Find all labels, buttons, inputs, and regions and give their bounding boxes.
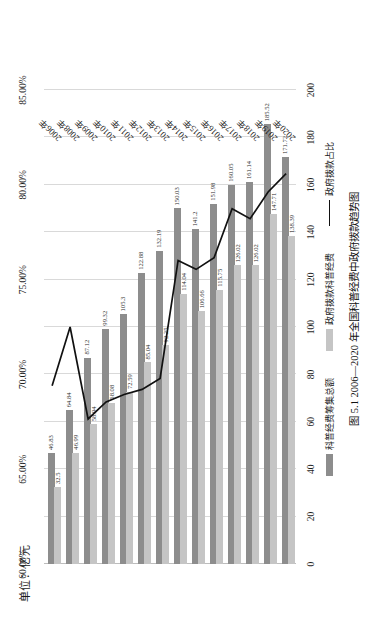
bar-value-total: 105.3 bbox=[120, 297, 127, 312]
bar-row: 171.72138.39 bbox=[278, 90, 296, 564]
legend-item: 政府拨款科普经费 bbox=[323, 253, 336, 352]
legend-item: 政府拨款占比 bbox=[323, 142, 336, 227]
bar-value-government: 92.25 bbox=[162, 328, 169, 343]
bar-row: 122.8885.04 bbox=[134, 90, 152, 564]
bar-government bbox=[72, 453, 78, 564]
bar-value-government: 147.71 bbox=[270, 193, 277, 211]
bar-government bbox=[216, 290, 222, 564]
figure-caption: 图 5.1 2006—2020 年全国科普经费中政府拨款趋势图 bbox=[346, 0, 361, 618]
bar-value-government: 106.66 bbox=[198, 290, 205, 308]
bar-value-total: 122.88 bbox=[138, 252, 145, 270]
bar-value-government: 46.99 bbox=[72, 435, 79, 450]
bar-row: 151.98115.75 bbox=[206, 90, 224, 564]
legend-swatch-icon bbox=[326, 455, 333, 477]
bar-value-total: 150.03 bbox=[174, 187, 181, 205]
bar-row: 105.372.59 bbox=[116, 90, 134, 564]
bar-row: 185.52147.71 bbox=[260, 90, 278, 564]
bar-government bbox=[162, 345, 168, 564]
bar-value-government: 126.02 bbox=[252, 244, 259, 262]
value-axis-tick: 200 bbox=[306, 83, 316, 97]
value-axis-tick: 100 bbox=[306, 320, 316, 334]
chart-legend: 科普经费筹集总额政府拨款科普经费政府拨款占比 bbox=[318, 0, 340, 618]
bar-government bbox=[144, 362, 150, 564]
bar-value-government: 115.75 bbox=[216, 269, 223, 287]
bar-row: 87.1258.94 bbox=[80, 90, 98, 564]
percent-axis-tick: 85.00% bbox=[18, 75, 28, 104]
bar-government bbox=[234, 265, 240, 564]
bar-row: 141.2106.66 bbox=[188, 90, 206, 564]
bar-value-government: 72.59 bbox=[126, 374, 133, 389]
value-axis-tick: 20 bbox=[306, 512, 316, 522]
legend-label: 政府拨款科普经费 bbox=[323, 253, 336, 325]
value-axis-tick: 0 bbox=[306, 562, 316, 567]
bar-row: 46.8332.5 bbox=[44, 90, 62, 564]
bar-row: 150.03114.04 bbox=[170, 90, 188, 564]
bar-value-total: 132.19 bbox=[156, 230, 163, 248]
bar-government bbox=[108, 403, 114, 564]
value-axis-tick: 40 bbox=[306, 464, 316, 474]
bar-government bbox=[126, 392, 132, 564]
bar-value-total: 161.14 bbox=[246, 161, 253, 179]
value-axis-tick: 80 bbox=[306, 370, 316, 380]
bar-value-government: 126.02 bbox=[234, 244, 241, 262]
bar-row: 132.1992.25 bbox=[152, 90, 170, 564]
bar-value-government: 58.94 bbox=[90, 406, 97, 421]
percent-axis-tick: 80.00% bbox=[18, 170, 28, 199]
bar-value-government: 32.5 bbox=[54, 472, 61, 484]
legend-label: 科普经费筹集总额 bbox=[323, 378, 336, 450]
value-axis-tick: 160 bbox=[306, 178, 316, 192]
value-axis-tick: 140 bbox=[306, 225, 316, 239]
legend-line-icon bbox=[329, 201, 330, 227]
bar-value-total: 87.12 bbox=[84, 340, 91, 355]
value-axis-tick: 60 bbox=[306, 417, 316, 427]
value-axis-tick: 180 bbox=[306, 130, 316, 144]
bar-government bbox=[90, 424, 96, 564]
legend-label: 政府拨款占比 bbox=[323, 142, 336, 196]
bar-value-government: 114.04 bbox=[180, 273, 187, 291]
bar-value-government: 68.08 bbox=[108, 385, 115, 400]
category-axis: 2006年2008年2009年2010年2011年2012年2013年2014年… bbox=[44, 84, 296, 144]
bar-rows: 46.8332.564.8446.9987.1258.9499.3268.081… bbox=[44, 90, 296, 564]
bar-value-government: 85.04 bbox=[144, 345, 151, 360]
rotated-figure-wrapper: 单位：亿元 020406080100120140160180200 60.00%… bbox=[0, 0, 374, 618]
plot-area: 020406080100120140160180200 60.00%65.00%… bbox=[44, 90, 296, 564]
legend-swatch-icon bbox=[326, 330, 333, 352]
bar-value-total: 151.98 bbox=[210, 183, 217, 201]
bar-row: 160.05126.02 bbox=[224, 90, 242, 564]
percent-axis-tick: 70.00% bbox=[18, 360, 28, 389]
bar-value-total: 141.2 bbox=[192, 212, 199, 227]
bar-value-total: 64.84 bbox=[66, 393, 73, 408]
bar-row: 161.14126.02 bbox=[242, 90, 260, 564]
bar-row: 99.3268.08 bbox=[98, 90, 116, 564]
percent-axis-tick: 75.00% bbox=[18, 265, 28, 294]
bar-government bbox=[180, 294, 186, 564]
value-axis-tick: 120 bbox=[306, 272, 316, 286]
bar-value-total: 160.05 bbox=[228, 164, 235, 182]
bar-government bbox=[198, 311, 204, 564]
bar-government bbox=[54, 487, 60, 564]
bar-row: 64.8446.99 bbox=[62, 90, 80, 564]
bar-government bbox=[288, 236, 294, 564]
bar-government bbox=[270, 214, 276, 564]
bar-value-total: 99.32 bbox=[102, 311, 109, 326]
percent-axis-tick: 65.00% bbox=[18, 455, 28, 484]
bar-value-government: 138.39 bbox=[288, 215, 295, 233]
legend-item: 科普经费筹集总额 bbox=[323, 378, 336, 477]
percent-axis-tick: 60.00% bbox=[18, 549, 28, 578]
bar-government bbox=[252, 265, 258, 564]
bar-value-total: 46.83 bbox=[48, 435, 55, 450]
chart-figure: 单位：亿元 020406080100120140160180200 60.00%… bbox=[0, 0, 374, 618]
